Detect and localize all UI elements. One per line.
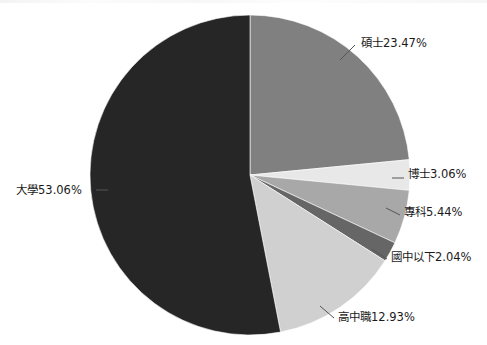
slice-label: 專科5.44%	[404, 205, 463, 219]
slice-label: 國中以下2.04%	[391, 250, 472, 264]
pie-slices-group	[90, 15, 410, 335]
slice-label: 碩士23.47%	[361, 36, 427, 50]
slice-label: 高中職12.93%	[338, 310, 415, 324]
slice-label: 大學53.06%	[16, 183, 82, 197]
scan-edge-artifact	[0, 0, 487, 3]
pie-chart-figure: 碩士23.47%博士3.06%專科5.44%國中以下2.04%高中職12.93%…	[0, 0, 487, 345]
pie-chart-svg: 碩士23.47%博士3.06%專科5.44%國中以下2.04%高中職12.93%…	[0, 0, 487, 345]
slice-label: 博士3.06%	[408, 167, 467, 181]
